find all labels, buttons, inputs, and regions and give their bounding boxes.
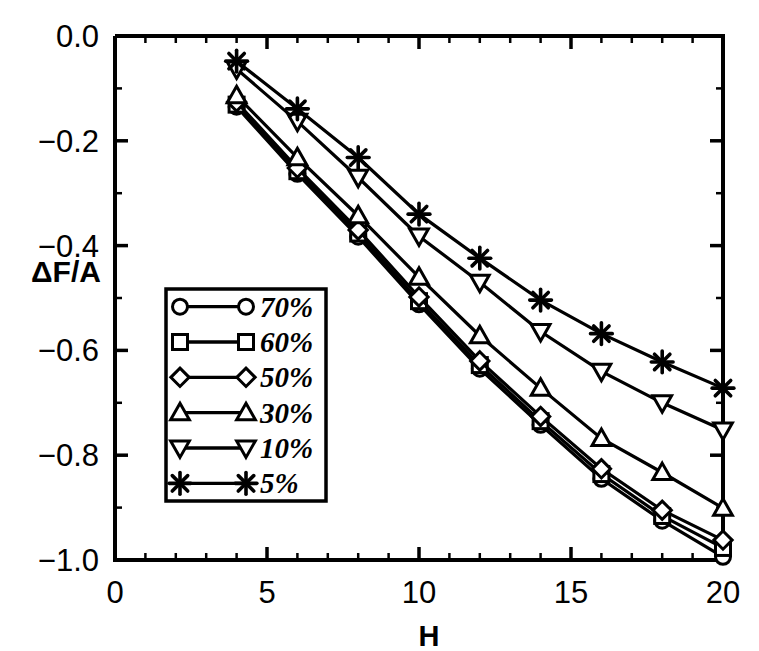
- data-point: [347, 147, 369, 169]
- legend-marker: [173, 299, 188, 314]
- data-point: [653, 396, 672, 413]
- data-point: [469, 247, 491, 269]
- legend-label: 50%: [260, 361, 313, 393]
- legend-marker: [169, 472, 191, 494]
- data-point: [226, 50, 248, 72]
- tick-labels: 0.0−0.2−0.4−0.6−0.8−1.005101520: [38, 19, 740, 610]
- y-axis-title: ΔF/A: [31, 255, 101, 288]
- legend-marker: [173, 335, 188, 350]
- data-point: [531, 324, 550, 341]
- y-tick-label: −0.6: [38, 333, 99, 368]
- x-tick-label: 20: [706, 575, 740, 610]
- chart-legend: 70%60%50%30%10%5%: [166, 289, 326, 501]
- legend-label: 60%: [260, 326, 313, 358]
- legend-label: 70%: [260, 291, 313, 323]
- legend-label: 5%: [260, 467, 299, 499]
- x-axis-title: H: [419, 620, 440, 651]
- legend-label: 10%: [260, 432, 313, 464]
- data-point: [592, 364, 611, 381]
- data-point: [287, 98, 309, 120]
- legend-label: 30%: [259, 397, 313, 429]
- data-point: [653, 463, 672, 480]
- y-tick-label: −0.2: [38, 124, 99, 159]
- legend-marker: [235, 472, 257, 494]
- legend-marker: [239, 335, 254, 350]
- figure-container: 0.0−0.2−0.4−0.6−0.8−1.005101520 ΔF/AH 70…: [0, 0, 759, 651]
- y-tick-label: 0.0: [56, 19, 99, 54]
- data-point: [712, 377, 734, 399]
- data-point: [651, 351, 673, 373]
- x-tick-label: 10: [402, 575, 436, 610]
- data-point: [227, 86, 246, 103]
- y-tick-label: −0.8: [38, 438, 99, 473]
- data-point: [714, 423, 733, 440]
- x-tick-label: 15: [554, 575, 588, 610]
- y-tick-label: −1.0: [38, 543, 99, 578]
- x-tick-label: 5: [258, 575, 275, 610]
- data-point: [530, 289, 552, 311]
- data-point: [591, 323, 613, 345]
- line-chart: 0.0−0.2−0.4−0.6−0.8−1.005101520 ΔF/AH 70…: [0, 0, 759, 651]
- data-point: [408, 203, 430, 225]
- legend-marker: [239, 299, 254, 314]
- x-tick-label: 0: [106, 575, 123, 610]
